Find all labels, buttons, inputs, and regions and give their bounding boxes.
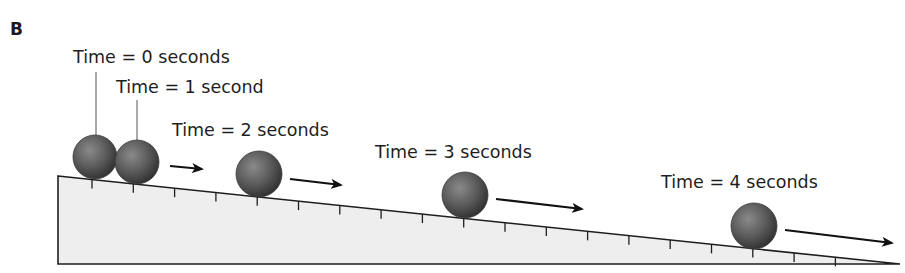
ball-icon bbox=[236, 151, 282, 197]
time-label: Time = 4 seconds bbox=[660, 172, 818, 192]
ball-icon bbox=[731, 203, 777, 249]
velocity-arrow-icon bbox=[496, 199, 582, 209]
ball-position-3: Time = 3 seconds bbox=[374, 142, 582, 218]
velocity-arrow-icon bbox=[170, 166, 202, 169]
panel-label: B bbox=[10, 19, 23, 39]
time-label: Time = 1 second bbox=[115, 77, 264, 97]
time-label: Time = 0 seconds bbox=[72, 47, 230, 67]
velocity-arrow-icon bbox=[785, 230, 892, 243]
ball-icon bbox=[73, 135, 117, 179]
ball-icon bbox=[442, 172, 488, 218]
ball-position-4: Time = 4 seconds bbox=[660, 172, 892, 249]
ball-icon bbox=[115, 140, 159, 184]
time-label: Time = 3 seconds bbox=[374, 142, 532, 162]
velocity-arrow-icon bbox=[290, 179, 341, 185]
time-label: Time = 2 seconds bbox=[171, 120, 329, 140]
rolling-ball-ramp-diagram: B Time = 0 secondsTime = 1 secondTime = … bbox=[0, 0, 905, 273]
ball-position-2: Time = 2 seconds bbox=[171, 120, 341, 197]
